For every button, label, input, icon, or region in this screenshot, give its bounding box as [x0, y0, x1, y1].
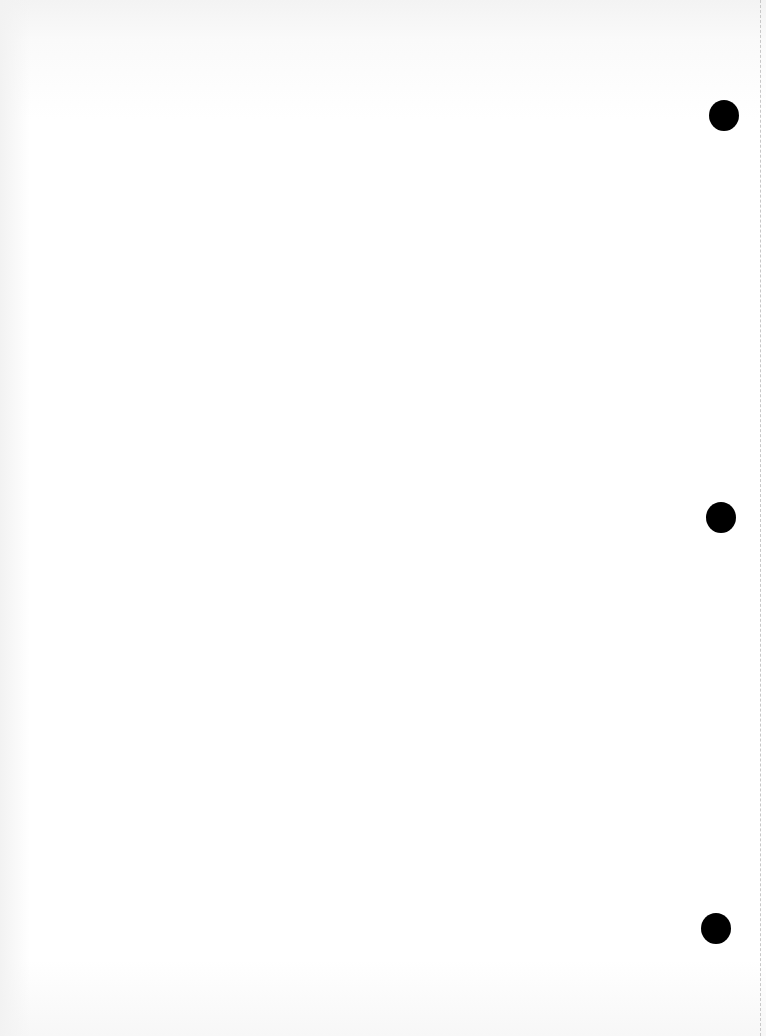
blank-paper-sheet: [0, 0, 766, 1036]
punch-hole-bottom: [701, 913, 731, 944]
perforation-edge-line: [760, 0, 761, 1036]
punch-hole-top: [709, 100, 739, 131]
punch-hole-middle: [706, 502, 736, 533]
